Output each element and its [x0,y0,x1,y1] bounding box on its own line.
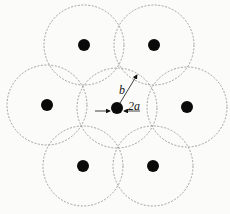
core-dot-top-right [148,39,160,51]
core-dot-right [181,101,193,113]
diagram-canvas [0,0,230,214]
core-dot-bottom-right [147,160,159,172]
core-dot-bottom-left [77,160,89,172]
radius-label: b [119,84,125,96]
core-dot-top-left [78,39,90,51]
diagram: b 2a [0,0,230,214]
diameter-label: 2a [128,100,140,112]
core-dot-left [41,99,53,111]
